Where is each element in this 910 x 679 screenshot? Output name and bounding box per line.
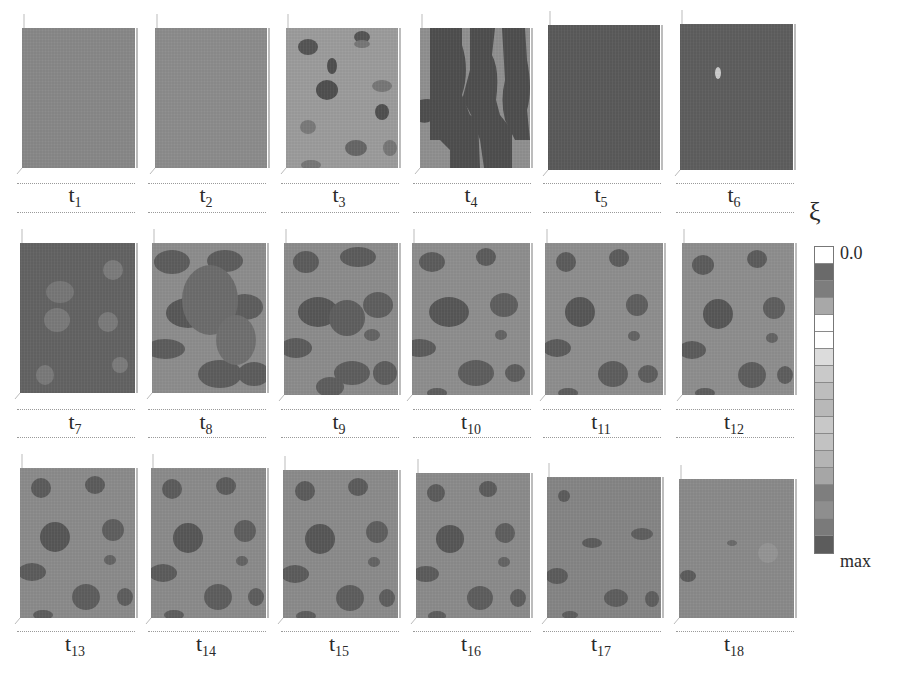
time-label-t9: t9: [281, 411, 397, 433]
snapshot-panel-t7: [15, 229, 137, 399]
separator-line: [413, 437, 531, 438]
snapshot-panel-t15: [278, 456, 400, 624]
colorbar-cell: [815, 298, 833, 315]
time-label-t7: t7: [17, 411, 133, 433]
separator-line: [281, 437, 399, 438]
colorbar: [814, 246, 834, 554]
separator-line: [148, 409, 266, 410]
time-label-t16: t16: [413, 633, 529, 655]
time-label-t1: t1: [17, 184, 133, 206]
time-label-t2: t2: [148, 184, 264, 206]
colorbar-cell: [815, 434, 833, 451]
separator-line: [17, 212, 135, 213]
time-label-t8: t8: [148, 411, 264, 433]
separator-line: [543, 437, 661, 438]
separator-line: [17, 631, 135, 632]
separator-line: [413, 631, 531, 632]
time-label-t17: t17: [543, 633, 659, 655]
separator-line: [543, 631, 661, 632]
snapshot-panel-t18: [674, 465, 796, 624]
separator-line: [676, 409, 794, 410]
separator-line: [676, 437, 794, 438]
colorbar-cell: [815, 264, 833, 281]
colorbar-symbol: ξ: [809, 197, 821, 227]
colorbar-cell: [815, 536, 833, 553]
separator-line: [281, 631, 399, 632]
colorbar-cell: [815, 247, 833, 264]
time-label-t4: t4: [413, 184, 529, 206]
snapshot-panel-t9: [279, 229, 400, 401]
colorbar-cell: [815, 519, 833, 536]
snapshot-panel-t11: [540, 229, 665, 401]
separator-line: [543, 409, 661, 410]
time-label-t10: t10: [413, 411, 529, 433]
snapshot-panel-t10: [404, 229, 532, 401]
snapshot-panel-t5: [543, 11, 662, 176]
time-label-t14: t14: [148, 633, 264, 655]
snapshot-panel-t17: [542, 463, 663, 624]
time-label-t3: t3: [281, 184, 397, 206]
snapshot-panel-t16: [411, 459, 532, 624]
colorbar-cell: [815, 315, 833, 332]
separator-line: [413, 409, 531, 410]
separator-line: [676, 212, 794, 213]
separator-line: [17, 409, 135, 410]
time-label-t13: t13: [17, 633, 133, 655]
separator-line: [17, 437, 135, 438]
time-label-t6: t6: [676, 184, 792, 206]
time-label-t11: t11: [543, 411, 659, 433]
colorbar-cell: [815, 332, 833, 349]
separator-line: [676, 631, 794, 632]
time-label-t12: t12: [676, 411, 792, 433]
snapshot-panel-t6: [675, 10, 795, 176]
colorbar-cell: [815, 417, 833, 434]
separator-line: [281, 212, 399, 213]
snapshot-panel-t8: [145, 229, 270, 399]
colorbar-cell: [815, 485, 833, 502]
colorbar-bottom-label: max: [840, 551, 871, 572]
snapshot-panel-t4: [415, 14, 532, 174]
separator-line: [543, 212, 661, 213]
snapshot-panel-t12: [677, 229, 796, 401]
colorbar-cell: [815, 366, 833, 383]
snapshot-panel-t3: [281, 14, 400, 174]
snapshot-grid: [0, 0, 910, 679]
colorbar-cell: [815, 502, 833, 519]
snapshot-panel-t1: [17, 14, 137, 174]
figure: t1t2t3t4t5t6t7t8t9t10t11t12t13t14t15t16t…: [0, 0, 910, 679]
time-label-t5: t5: [543, 184, 659, 206]
colorbar-cell: [815, 400, 833, 417]
colorbar-cell: [815, 349, 833, 366]
colorbar-top-label: 0.0: [840, 243, 863, 264]
time-label-t15: t15: [281, 633, 397, 655]
separator-line: [413, 212, 531, 213]
time-label-t18: t18: [676, 633, 792, 655]
separator-line: [148, 631, 266, 632]
colorbar-cell: [815, 468, 833, 485]
snapshot-panel-t2: [150, 14, 269, 174]
separator-line: [148, 212, 266, 213]
snapshot-panel-t13: [15, 454, 137, 624]
colorbar-cell: [815, 451, 833, 468]
snapshot-panel-t14: [146, 454, 268, 624]
separator-line: [148, 437, 266, 438]
colorbar-cell: [815, 281, 833, 298]
separator-line: [281, 409, 399, 410]
colorbar-cell: [815, 383, 833, 400]
